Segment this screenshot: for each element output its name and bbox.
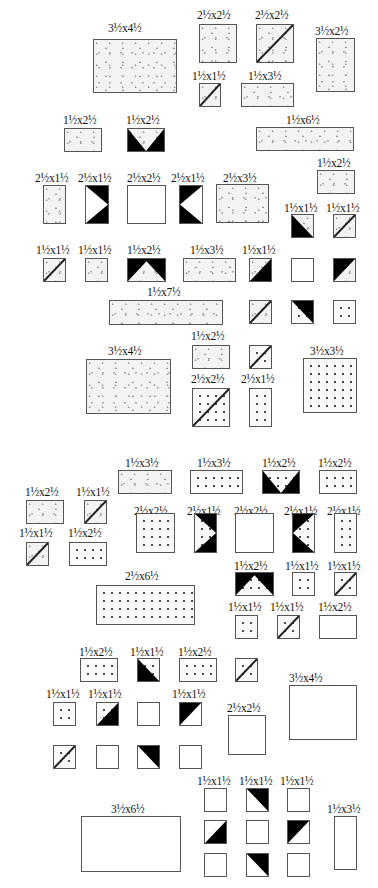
piece-pattern-icon [334, 215, 355, 237]
piece-size-label: 1½x7½ [147, 286, 181, 298]
piece-size-label: 1½x2½ [178, 646, 212, 658]
fabric-piece-diag-bl-tr [43, 258, 66, 282]
fabric-piece [96, 585, 195, 625]
piece-size-label: 1½x3½ [197, 457, 231, 469]
piece-size-label: 1½x1½ [270, 601, 304, 613]
fabric-piece-black-tr [246, 853, 269, 877]
piece-size-label: 1½x2½ [126, 114, 160, 126]
fabric-piece [192, 345, 230, 369]
piece-pattern-icon [97, 703, 118, 725]
piece-size-label: 1½x2½ [63, 114, 97, 126]
fabric-piece [69, 542, 107, 566]
fabric-piece [96, 745, 119, 769]
piece-size-label: 1½x1½ [19, 527, 53, 539]
piece-size-label: 1½x1½ [242, 244, 276, 256]
piece-size-label: 2½x2½ [255, 9, 289, 21]
fabric-piece-black-tl [179, 702, 202, 726]
fabric-piece [246, 820, 269, 844]
fabric-piece-black-v-left [292, 513, 315, 553]
fabric-piece [291, 258, 314, 282]
fabric-piece [137, 702, 160, 726]
fabric-piece-black-tr [291, 300, 314, 324]
piece-pattern-icon [27, 543, 48, 565]
piece-size-label: 1½x1½ [46, 688, 80, 700]
piece-size-label: 1½x1½ [280, 775, 314, 787]
piece-size-label: 1½x6½ [286, 114, 320, 126]
piece-size-label: 1½x1½ [76, 486, 110, 498]
piece-size-label: 1½x3½ [125, 457, 159, 469]
fabric-piece-diag-bl-tr [249, 345, 272, 369]
fabric-piece [85, 258, 108, 282]
fabric-piece [289, 685, 357, 740]
piece-size-label: 1½x1½ [284, 202, 318, 214]
piece-pattern-icon [128, 129, 164, 151]
fabric-piece-diag-bl-tr [249, 300, 272, 324]
fabric-piece [43, 185, 66, 224]
piece-size-label: 2½x2½ [197, 9, 231, 21]
piece-size-label: 2½x3½ [223, 172, 257, 184]
fabric-piece-diag-bl-tr [199, 83, 221, 107]
piece-size-label: 1½x2½ [318, 457, 352, 469]
piece-size-label: 2½x2½ [227, 702, 261, 714]
fabric-piece [179, 658, 217, 682]
piece-pattern-icon [257, 25, 293, 62]
piece-size-label: 1½x1½ [36, 244, 70, 256]
piece-size-label: 1½x1½ [327, 560, 361, 572]
piece-pattern-icon [250, 259, 271, 281]
fabric-piece [334, 816, 357, 870]
fabric-piece [204, 853, 227, 877]
piece-pattern-icon [195, 514, 216, 552]
fabric-piece-black-v-right [85, 185, 109, 224]
piece-size-label: 1½x1½ [197, 775, 231, 787]
fabric-piece [118, 470, 172, 494]
fabric-piece [317, 170, 355, 194]
fabric-piece [127, 185, 166, 224]
piece-size-label: 1½x1½ [172, 688, 206, 700]
piece-pattern-icon [247, 854, 268, 876]
fabric-piece-black-tr [137, 745, 160, 769]
fabric-piece-diag-bl-tr [192, 388, 230, 427]
piece-size-label: 1½x2½ [262, 457, 296, 469]
fabric-piece-diag-bl-tr [334, 572, 357, 596]
fabric-piece-black-tl [333, 258, 356, 282]
fabric-piece-diag-bl-tr [256, 24, 294, 63]
fabric-piece [228, 715, 266, 755]
fabric-piece [26, 500, 64, 524]
piece-pattern-icon [292, 301, 313, 323]
piece-size-label: 3½x4½ [289, 672, 323, 684]
piece-pattern-icon [44, 259, 65, 281]
piece-size-label: 1½x2½ [25, 486, 59, 498]
fabric-piece [256, 127, 354, 151]
piece-pattern-icon [335, 573, 356, 595]
piece-pattern-icon [292, 215, 313, 237]
fabric-piece-black-v-up [127, 258, 166, 282]
fabric-piece [241, 83, 294, 107]
fabric-piece [319, 470, 357, 494]
piece-pattern-icon [263, 471, 299, 493]
piece-pattern-icon [138, 746, 159, 768]
piece-pattern-icon [180, 703, 201, 725]
piece-size-label: 2½x1½ [35, 172, 69, 184]
fabric-piece [287, 788, 310, 812]
piece-size-label: 1½x1½ [326, 202, 360, 214]
fabric-piece [86, 359, 171, 414]
fabric-piece [249, 388, 272, 427]
piece-pattern-icon [200, 84, 220, 106]
fabric-piece [80, 658, 118, 682]
fabric-piece-black-v-left [179, 185, 203, 224]
piece-pattern-icon [247, 789, 268, 811]
fabric-piece [292, 572, 315, 596]
piece-size-label: 1½x2½ [79, 646, 113, 658]
fabric-piece-black-br-tl-left [291, 214, 314, 238]
piece-size-label: 1½x3½ [190, 244, 224, 256]
fabric-piece-diag-bl-tr [277, 615, 300, 639]
fabric-piece-black-br [249, 258, 272, 282]
piece-size-label: 2½x2½ [191, 373, 225, 385]
fabric-piece [333, 300, 356, 324]
piece-size-label: 1½x1½ [78, 244, 112, 256]
fabric-piece [136, 513, 175, 553]
fabric-piece-black-tr [246, 788, 269, 812]
fabric-piece-black-v-right [194, 513, 217, 553]
fabric-piece-diag-bl-tr [53, 745, 76, 769]
piece-size-label: 1½x1½ [285, 560, 319, 572]
